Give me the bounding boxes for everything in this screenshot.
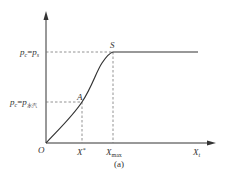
point-s-label: S (110, 40, 115, 50)
origin-label: O (38, 145, 45, 155)
x-axis-arrow-icon (207, 141, 216, 146)
x-tick-xstar: X* (76, 147, 86, 157)
pc-curve (46, 52, 198, 143)
x-tick-xmax: Xmax (105, 147, 122, 158)
y-axis-arrow-icon (44, 11, 49, 20)
figure-caption: (a) (114, 159, 124, 169)
y-label-ps: pc=ps (19, 47, 40, 58)
y-label-pvapor: pc=p水汽 (9, 97, 37, 108)
point-a-label: A (76, 92, 83, 102)
diagram-canvas: S A O pc=ps pc=p水汽 X* Xmax Xt (a) (0, 0, 225, 179)
x-axis-label: Xt (192, 147, 201, 158)
